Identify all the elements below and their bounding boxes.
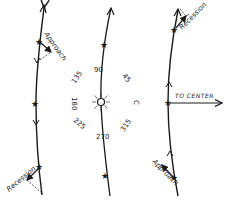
center-star-top-icon: ★ (100, 40, 108, 50)
left-approach-label: Approach (42, 30, 68, 63)
left-star-top-icon: ★ (35, 37, 43, 47)
angle-90: 90 (94, 66, 103, 74)
left-dir-arrow-icon (34, 58, 40, 63)
angle-45: 45 (120, 72, 132, 84)
angle-180: 180 (70, 97, 78, 110)
right-recession-label: Recession (178, 1, 209, 32)
orbital-motion-diagram: ★ ★ ★ Approach Recession ★ ★ 90 (0, 0, 231, 202)
right-orbit-panel: ★ ★ ★ Recession TO CENTER Approach (150, 1, 222, 196)
right-dir-arrow2-icon (167, 151, 173, 156)
sun-icon (92, 93, 110, 111)
angle-270: 270 (96, 133, 109, 141)
angle-225: 225 (72, 116, 87, 131)
angle-315: 315 (119, 118, 133, 134)
left-recession-label: Recession (5, 165, 37, 194)
left-star-mid-icon: ★ (31, 99, 39, 109)
center-panel: ★ ★ 90 45 135 180 225 270 315 C (70, 8, 140, 196)
angle-135: 135 (70, 70, 84, 86)
to-center-label: TO CENTER (175, 92, 214, 99)
left-orbit-panel: ★ ★ ★ Approach Recession (5, 5, 68, 195)
center-star-bottom-icon: ★ (101, 171, 109, 181)
center-c-label: C (132, 100, 140, 105)
